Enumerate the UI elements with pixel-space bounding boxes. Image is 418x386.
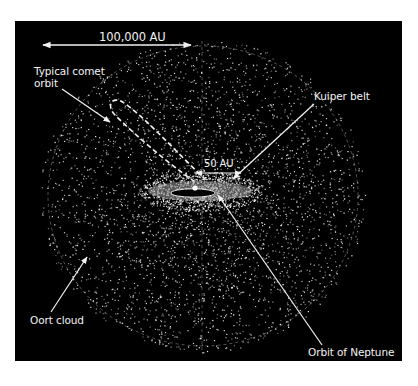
neptune-orbit: [171, 189, 215, 197]
oort-cloud-pointer: [51, 257, 87, 312]
neptune-orbit-pointer: [218, 195, 322, 345]
kuiper-belt-label: Kuiper belt: [314, 90, 370, 102]
comet-orbit-path: [110, 100, 205, 182]
small-scale-label: 50 AU: [204, 158, 234, 170]
large-scale-label: 100,000 AU: [99, 31, 166, 43]
sun-icon: [192, 185, 197, 190]
kuiper-belt-pointer: [233, 104, 314, 179]
neptune-orbit-label: Orbit of Neptune: [308, 346, 394, 358]
comet-orbit-pointer: [62, 89, 110, 122]
oort-cloud-label: Oort cloud: [30, 314, 84, 326]
comet-orbit-label: Typical comet orbit: [34, 65, 110, 89]
oort-cloud-diagram: 100,000 AU 50 AU Typical comet orbit Kui…: [15, 21, 402, 361]
